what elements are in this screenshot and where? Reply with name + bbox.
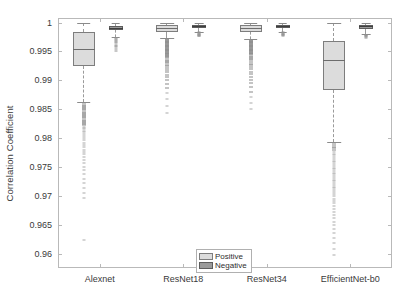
outlier-point (82, 154, 85, 155)
outlier-point (114, 50, 117, 51)
y-axis-tick-mark (388, 196, 392, 197)
outlier-point (166, 93, 169, 94)
outlier-point (333, 243, 336, 244)
x-axis-tick-mark (350, 18, 351, 22)
outlier-point (82, 142, 85, 143)
outlier-point (82, 140, 85, 141)
median-line (109, 28, 123, 29)
outlier-point (333, 221, 336, 222)
boxplot-figure: Correlation Coefficient 10.9950.990.9850… (0, 0, 402, 307)
y-axis-tick-mark (388, 23, 392, 24)
outlier-point (333, 196, 336, 197)
x-axis-tick-mark (267, 264, 268, 268)
y-axis-tick-mark (388, 167, 392, 168)
y-axis-tick-label: 0.98 (4, 133, 52, 143)
outlier-point (249, 71, 253, 72)
outlier-point (249, 97, 252, 98)
y-axis-tick-mark (388, 51, 392, 52)
whisker-cap-upper (244, 23, 258, 24)
outlier-point (249, 83, 253, 84)
outlier-point (333, 218, 336, 219)
box-positive (323, 41, 345, 91)
outlier-point (165, 80, 169, 81)
outlier-point (82, 138, 85, 139)
y-axis-tick-mark (58, 23, 62, 24)
outlier-point (249, 76, 253, 77)
outlier-point (333, 237, 336, 238)
y-axis-tick-label: 0.975 (4, 162, 52, 172)
y-axis-tick-label: 0.99 (4, 75, 52, 85)
y-axis-tick-mark (58, 167, 62, 168)
outlier-point (333, 191, 336, 192)
outlier-point (82, 166, 85, 167)
legend-item-negative: Negative (199, 261, 249, 270)
outlier-point (165, 76, 169, 77)
outlier-point (82, 145, 85, 146)
legend: Positive Negative (196, 249, 252, 273)
y-axis-tick-mark (388, 138, 392, 139)
outlier-point (82, 170, 85, 171)
outlier-point (82, 135, 85, 136)
y-axis-tick-mark (388, 109, 392, 110)
y-axis-tick-mark (58, 138, 62, 139)
outlier-point (82, 183, 85, 184)
outlier-point (82, 147, 85, 148)
outlier-point (166, 113, 169, 114)
outlier-point (249, 69, 253, 70)
whisker-lower (83, 66, 85, 102)
y-axis-tick-mark (388, 80, 392, 81)
x-axis-tick-label: ResNet34 (247, 274, 287, 284)
y-axis-tick-label: 0.965 (4, 220, 52, 230)
legend-label-positive: Positive (215, 253, 243, 261)
outlier-point (333, 206, 336, 207)
outlier-point (333, 203, 336, 204)
y-axis-tick-mark (388, 254, 392, 255)
x-axis-tick-label: EfficientNet-b0 (321, 274, 380, 284)
outlier-point (249, 87, 253, 88)
median-line (73, 49, 95, 50)
outlier-point (82, 178, 85, 179)
outlier-point (333, 248, 336, 249)
outlier-point (82, 151, 85, 152)
median-line (156, 28, 178, 29)
outlier-point (333, 209, 336, 210)
whisker-upper (83, 23, 85, 32)
outlier-point (333, 254, 336, 255)
y-axis-tick-label: 0.995 (4, 46, 52, 56)
outlier-point (249, 74, 253, 75)
outlier-point (165, 83, 169, 84)
y-axis-tick-mark (388, 225, 392, 226)
y-axis-tick-mark (58, 109, 62, 110)
whisker-cap-upper (111, 23, 120, 24)
legend-swatch-positive (199, 253, 213, 260)
whisker-cap-upper (160, 23, 174, 24)
outlier-point (82, 160, 85, 161)
x-axis-tick-mark (100, 264, 101, 268)
outlier-point (82, 187, 85, 188)
y-axis-tick-label: 0.985 (4, 104, 52, 114)
y-axis-tick-mark (58, 254, 62, 255)
x-axis-tick-mark (183, 18, 184, 22)
x-axis-tick-mark (267, 18, 268, 22)
outlier-point (333, 194, 336, 195)
outlier-point (82, 149, 85, 150)
outlier-point (166, 105, 169, 106)
x-axis-tick-mark (183, 264, 184, 268)
outlier-point (333, 225, 336, 226)
outlier-point (249, 67, 253, 68)
whisker-cap-upper (77, 23, 91, 24)
median-line (359, 26, 373, 27)
outlier-point (165, 88, 169, 89)
median-line (192, 26, 206, 27)
whisker-lower (250, 32, 252, 39)
outlier-point (333, 201, 336, 202)
outlier-point (82, 156, 85, 157)
outlier-point (333, 211, 336, 212)
outlier-point (249, 79, 253, 80)
x-axis-tick-label: ResNet18 (163, 274, 203, 284)
outlier-point (333, 214, 336, 215)
outlier-point (333, 233, 336, 234)
outlier-point (82, 163, 85, 164)
y-axis-tick-label: 1 (4, 18, 52, 28)
outlier-point (333, 198, 336, 199)
